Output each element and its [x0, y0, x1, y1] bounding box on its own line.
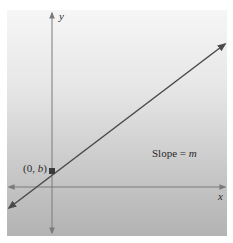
- y-intercept-point: [49, 168, 55, 174]
- slope-label-text: Slope =: [152, 147, 189, 159]
- y-axis-label: y: [59, 11, 64, 22]
- linear-function-line: [9, 44, 225, 208]
- slope-var: m: [189, 147, 197, 159]
- x-axis-label: x: [218, 191, 223, 202]
- slope-label: Slope = m: [152, 148, 197, 159]
- intercept-label-prefix: (0,: [23, 162, 38, 174]
- intercept-label-suffix: ): [43, 162, 47, 174]
- graph-svg: [0, 0, 233, 243]
- intercept-label: (0, b): [23, 163, 47, 174]
